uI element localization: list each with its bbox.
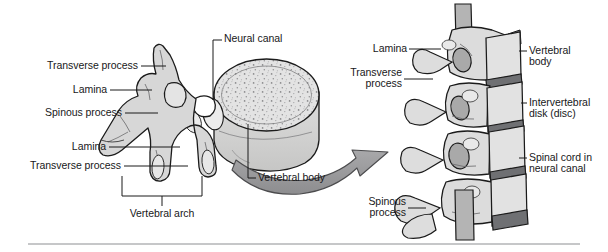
vertebra-segment-1 xyxy=(413,27,521,82)
anatomy-figure: Neural canal Transverse process Lamina S… xyxy=(0,0,608,252)
label-transverse-process-right-line2: process xyxy=(330,78,402,90)
label-neural-canal: Neural canal xyxy=(224,33,282,45)
label-vertebral-body: Vertebral body xyxy=(258,172,325,184)
label-vertebral-arch: Vertebral arch xyxy=(112,208,212,220)
label-intervertebral-disk-line2: disk (disc) xyxy=(529,108,576,120)
label-transverse-process-upper: Transverse process xyxy=(0,60,138,72)
label-lamina-lower: Lamina xyxy=(0,141,106,153)
label-vertebral-body-right-line2: body xyxy=(529,56,552,68)
vertebral-column-illustration xyxy=(395,4,528,240)
label-transverse-process-lower: Transverse process xyxy=(0,160,121,172)
label-spinous-process-right-line2: process xyxy=(336,207,406,219)
label-lamina-right: Lamina xyxy=(352,43,407,55)
vertebral-body-shape xyxy=(214,59,319,171)
label-spinal-cord-line2: neural canal xyxy=(529,163,586,175)
figure-artwork xyxy=(0,0,608,252)
label-spinous-process: Spinous process xyxy=(0,107,122,119)
spinal-cord-bottom xyxy=(455,190,474,240)
label-lamina-upper: Lamina xyxy=(0,84,107,96)
